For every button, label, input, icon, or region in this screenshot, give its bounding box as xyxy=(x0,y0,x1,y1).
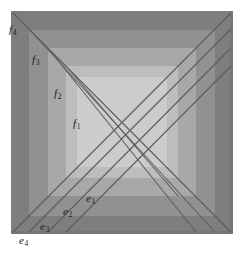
diagram-canvas: f4f3f2f1e1e2e3e4 xyxy=(0,0,241,253)
nested-squares-diagonal-diagram: f4f3f2f1e1e2e3e4 xyxy=(0,0,241,253)
outer-shadow-right xyxy=(230,11,233,234)
